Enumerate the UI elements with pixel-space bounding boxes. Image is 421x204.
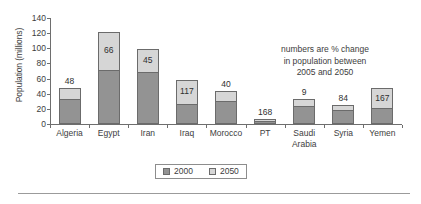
y-tick-mark [47,79,50,80]
y-tick-label: 100 [22,44,46,53]
x-tick-label: Algeria [50,128,89,139]
y-tick-mark [47,109,50,110]
legend-item-2000[interactable]: 2000 [163,167,193,176]
x-tick-label: Egypt [89,128,128,139]
legend-item-2050[interactable]: 2050 [209,167,239,176]
footer-divider [18,193,410,194]
bar-data-label: 117 [179,87,195,96]
bar-iran[interactable]: 45 [137,49,159,124]
y-tick-label: 20 [22,105,46,114]
chart-annotation: numbers are % change in population betwe… [236,44,414,79]
bar-data-label: 45 [142,56,153,65]
bar-segment-2000[interactable] [98,70,120,125]
bar-data-label: 168 [257,108,273,117]
bar-syria[interactable]: 84 [332,105,354,124]
y-tick-label: 140 [22,14,46,23]
legend-label: 2050 [220,167,239,176]
x-tick-label: Syria [324,128,363,139]
y-tick-label: 60 [22,75,46,84]
population-bar-chart: Population (millions) 020406080100120140… [0,0,421,204]
x-tick-label: Saudi Arabia [285,128,324,149]
bar-segment-2000[interactable] [137,72,159,124]
bar-pt[interactable]: 168 [254,119,276,124]
y-tick-label: 40 [22,90,46,99]
y-tick-mark [47,18,50,19]
y-tick-label: 0 [22,120,46,129]
x-axis-line [50,124,402,125]
legend-label: 2000 [174,167,193,176]
y-axis-tick-labels: 020406080100120140 [22,0,46,204]
y-tick-mark [47,33,50,34]
annotation-line-2: in population between [236,56,414,68]
legend-swatch-icon [163,168,170,175]
bar-iraq[interactable]: 117 [176,80,198,124]
bar-segment-2000[interactable] [176,104,198,124]
annotation-line-3: 2005 and 2050 [236,67,414,79]
bar-segment-2000[interactable] [59,99,81,124]
legend-swatch-icon [209,168,216,175]
bar-yemen[interactable]: 167 [371,88,393,124]
x-tick-label: Morocco [206,128,245,139]
bar-segment-2000[interactable] [332,110,354,124]
y-tick-label: 120 [22,29,46,38]
y-tick-mark [47,94,50,95]
bar-data-label: 167 [374,94,390,103]
bar-saudi-arabia[interactable]: 9 [293,99,315,124]
bar-data-label: 48 [64,77,75,86]
x-axis-tick-labels: AlgeriaEgyptIranIraqMoroccoPTSaudi Arabi… [50,128,402,156]
y-axis-line [50,18,51,124]
chart-legend: 20002050 [155,164,247,179]
bar-data-label: 66 [103,46,114,55]
bar-segment-2000[interactable] [293,106,315,124]
bar-morocco[interactable]: 40 [215,91,237,124]
annotation-line-1: numbers are % change [236,44,414,56]
y-tick-label: 80 [22,59,46,68]
bar-segment-2000[interactable] [215,101,237,124]
x-tick-label: Iraq [167,128,206,139]
x-tick-label: Iran [128,128,167,139]
bar-algeria[interactable]: 48 [59,88,81,124]
x-tick-label: PT [246,128,285,139]
y-tick-mark [47,48,50,49]
bar-data-label: 84 [338,94,349,103]
bar-data-label: 40 [220,80,231,89]
bar-egypt[interactable]: 66 [98,32,120,124]
bar-segment-2000[interactable] [254,121,276,124]
y-tick-mark [47,63,50,64]
bar-data-label: 9 [301,88,308,97]
x-tick-label: Yemen [363,128,402,139]
x-tick-mark [402,125,403,128]
bar-segment-2000[interactable] [371,108,393,124]
